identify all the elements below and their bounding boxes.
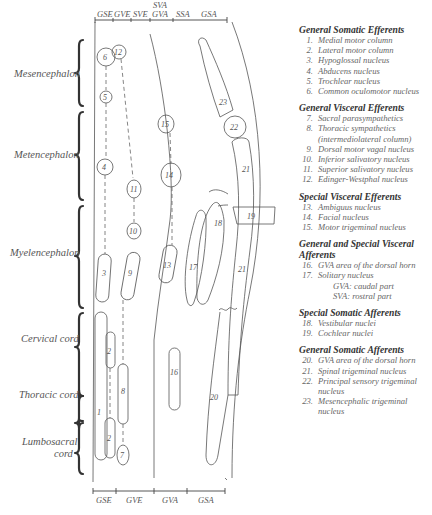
- nucleus-17: 17: [189, 263, 198, 272]
- legend-item: 16.GVA area of the dorsal horn: [299, 260, 432, 270]
- nucleus-11: 11: [130, 185, 137, 194]
- legend-item-number: 13.: [299, 202, 318, 212]
- sve-nuclei: 15 14 13: [158, 115, 181, 284]
- legend-item-text: Medial motor column: [318, 35, 432, 45]
- legend-item-number: 15.: [299, 222, 318, 232]
- legend-item-text: Spinal trigeminal nucleus: [318, 366, 432, 376]
- legend-item-number: 8.: [299, 123, 318, 143]
- legend-item-text: Trochlear nucleus: [318, 76, 432, 86]
- legend-item: 4.Abducens nucleus: [299, 66, 432, 76]
- legend-item: 6.Common oculomotor nucleus: [299, 86, 432, 96]
- legend-item-number: 5.: [299, 76, 318, 86]
- nucleus-2-cervical: 2: [107, 347, 111, 356]
- nucleus-18: 18: [214, 219, 222, 228]
- legend-item-text: Common oculomotor nucleus: [318, 86, 432, 96]
- legend-item-number: 1.: [299, 35, 318, 45]
- legend-item-text: Solitary nucleus: [318, 270, 432, 280]
- nucleus-13: 13: [163, 261, 171, 270]
- legend-group-gse: General Somatic Efferents 1.Medial motor…: [299, 24, 432, 96]
- legend-item: 17.Solitary nucleus: [299, 270, 432, 280]
- legend-item: 7.Sacral parasympathetics: [299, 113, 432, 123]
- top-col-sve: SVE: [133, 9, 148, 19]
- legend-item-number: 20.: [299, 355, 318, 365]
- top-column-axis: GSE GVE SVE SVA GVA SSA GSA: [95, 0, 227, 23]
- nucleus-2-lumbosacral: 2: [107, 434, 111, 443]
- legend-title: General Somatic Efferents: [299, 24, 432, 35]
- legend-item: 23.Mesencephalic trigeminal nucleus: [299, 396, 432, 416]
- nucleus-7: 7: [120, 451, 125, 460]
- legend-item-text: Inferior salivatory nucleus: [318, 154, 432, 164]
- legend-item: 10.Inferior salivatory nucleus: [299, 154, 432, 164]
- legend-item: 1.Medial motor column: [299, 35, 432, 45]
- legend-subitem: GVA: caudal part: [299, 281, 432, 291]
- legend-item-number: 17.: [299, 270, 318, 280]
- nucleus-9: 9: [128, 269, 132, 278]
- legend-item-number: 2.: [299, 45, 318, 55]
- legend-group-gsa: General Somatic Afferents 20.GVA area of…: [299, 344, 432, 416]
- legend-item-text: Abducens nucleus: [318, 66, 432, 76]
- legend-item: 18.Vestibular nuclei: [299, 318, 432, 328]
- bottom-column-axis: GSE GVE GVA GSA: [93, 488, 225, 505]
- afferent-nuclei: 16 17 18 19 23 22 21 21 20: [169, 38, 275, 465]
- top-col-ssa: SSA: [176, 9, 191, 19]
- legend-item-number: 10.: [299, 154, 318, 164]
- nucleus-1: 1: [97, 408, 101, 417]
- legend-title: Special Somatic Afferents: [299, 307, 432, 318]
- legend-item: 2.Lateral motor column: [299, 45, 432, 55]
- legend-item-text: Thoracic sympathetics (intermediolateral…: [318, 123, 432, 143]
- nucleus-21-lower: 21: [238, 265, 246, 274]
- bottom-col-gva: GVA: [162, 495, 179, 505]
- legend-item: 14.Facial nucleus: [299, 212, 432, 222]
- legend: General Somatic Efferents 1.Medial motor…: [299, 24, 432, 423]
- legend-item-text: GVA area of the dorsal horn: [318, 355, 432, 365]
- legend-item-number: 22.: [299, 376, 318, 396]
- legend-item-number: 11.: [299, 164, 318, 174]
- legend-item: 13.Ambiguus nucleus: [299, 202, 432, 212]
- legend-item-number: 12.: [299, 174, 318, 184]
- legend-title: General Visceral Efferents: [299, 102, 432, 113]
- legend-item-number: 19.: [299, 328, 318, 338]
- legend-item-number: 3.: [299, 55, 318, 65]
- legend-item-number: 14.: [299, 212, 318, 222]
- legend-item-text: Motor trigeminal nucleus: [318, 222, 432, 232]
- legend-item-text: Cochlear nuclei: [318, 328, 432, 338]
- legend-item: 21.Spinal trigeminal nucleus: [299, 366, 432, 376]
- legend-item-number: 21.: [299, 366, 318, 376]
- nucleus-23: 23: [219, 98, 227, 107]
- legend-subitem: SVA: rostral part: [299, 291, 432, 301]
- legend-item-number: 18.: [299, 318, 318, 328]
- legend-item: 11.Superior salivatory nucleus: [299, 164, 432, 174]
- nucleus-6: 6: [103, 53, 107, 62]
- region-lumbosacral-cord-2: cord: [54, 448, 74, 459]
- legend-item: 19.Cochlear nuclei: [299, 328, 432, 338]
- legend-group-ssa: Special Somatic Afferents 18.Vestibular …: [299, 307, 432, 338]
- legend-item-number: 9.: [299, 144, 318, 154]
- nucleus-4: 4: [102, 163, 106, 172]
- top-col-gsa: GSA: [201, 9, 217, 19]
- bottom-col-gve: GVE: [126, 495, 143, 505]
- top-col-gse: GSE: [97, 9, 113, 19]
- region-thoracic-cord: Thoracic cord: [19, 389, 79, 400]
- legend-item: 15.Motor trigeminal nucleus: [299, 222, 432, 232]
- legend-item-text: Hypoglossal nucleus: [318, 55, 432, 65]
- legend-item-text: Vestibular nuclei: [318, 318, 432, 328]
- legend-item: 20.GVA area of the dorsal horn: [299, 355, 432, 365]
- brace-lumbosacral: [75, 423, 83, 474]
- legend-item-text: Sacral parasympathetics: [318, 113, 432, 123]
- bottom-col-gsa: GSA: [198, 495, 214, 505]
- top-col-gva: GVA: [152, 9, 169, 19]
- gve-nuclei: 12 11 10 9 8 7: [112, 45, 141, 465]
- legend-item-number: 23.: [299, 396, 318, 416]
- legend-item-number: 6.: [299, 86, 318, 96]
- nucleus-16: 16: [170, 368, 178, 377]
- legend-item-number: 4.: [299, 66, 318, 76]
- nucleus-20: 20: [210, 393, 218, 402]
- top-col-gve: GVE: [114, 9, 131, 19]
- legend-item: 22.Principal sensory trigeminal nucleus: [299, 376, 432, 396]
- nucleus-15: 15: [161, 120, 169, 129]
- legend-item: 8.Thoracic sympathetics (intermediolater…: [299, 123, 432, 143]
- region-cervical-cord: Cervical cord: [21, 333, 79, 344]
- legend-item-number: 7.: [299, 113, 318, 123]
- legend-item-text: Facial nucleus: [318, 212, 432, 222]
- legend-item: 3.Hypoglossal nucleus: [299, 55, 432, 65]
